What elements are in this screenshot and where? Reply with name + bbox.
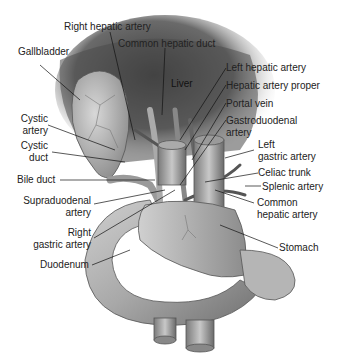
label-splenic-artery: Splenic artery bbox=[262, 181, 323, 193]
label-stomach: Stomach bbox=[279, 242, 318, 254]
label-cystic-artery-line2: artery bbox=[16, 125, 48, 137]
label-left-hepatic-artery: Left hepatic artery bbox=[226, 62, 306, 74]
label-celiac-trunk: Celiac trunk bbox=[258, 167, 311, 179]
label-hepatic-artery-proper: Hepatic artery proper bbox=[226, 80, 320, 92]
label-gastroduodenal-line1: Gastroduodenal bbox=[226, 115, 297, 127]
label-supraduodenal-artery: Supraduodenal artery bbox=[16, 195, 91, 219]
label-supraduodenal-line2: artery bbox=[16, 207, 91, 219]
label-bile-duct: Bile duct bbox=[17, 174, 55, 186]
label-right-gastric-line2: gastric artery bbox=[16, 239, 91, 251]
label-liver: Liver bbox=[171, 78, 193, 90]
anatomy-diagram: Right hepatic artery Common hepatic duct… bbox=[0, 0, 343, 355]
label-common-hepatic-line2: hepatic artery bbox=[257, 209, 318, 221]
label-left-gastric-artery: Left gastric artery bbox=[258, 139, 316, 163]
label-supraduodenal-line1: Supraduodenal bbox=[16, 195, 91, 207]
label-duodenum: Duodenum bbox=[40, 259, 89, 271]
label-common-hepatic-artery: Common hepatic artery bbox=[257, 197, 318, 221]
label-right-gastric-artery: Right gastric artery bbox=[16, 227, 91, 251]
label-portal-vein: Portal vein bbox=[226, 98, 273, 110]
label-cystic-artery-line1: Cystic bbox=[16, 113, 48, 125]
label-cystic-duct-line1: Cystic bbox=[16, 140, 48, 152]
label-left-gastric-line1: Left bbox=[258, 139, 316, 151]
label-cystic-duct-line2: duct bbox=[16, 152, 48, 164]
label-gallbladder: Gallbladder bbox=[18, 46, 69, 58]
label-gastroduodenal-artery: Gastroduodenal artery bbox=[226, 115, 297, 139]
label-left-gastric-line2: gastric artery bbox=[258, 151, 316, 163]
label-right-gastric-line1: Right bbox=[16, 227, 91, 239]
label-cystic-artery: Cystic artery bbox=[16, 113, 48, 137]
gallbladder-shape bbox=[72, 71, 129, 178]
label-common-hepatic-line1: Common bbox=[257, 197, 318, 209]
label-cystic-duct: Cystic duct bbox=[16, 140, 48, 164]
label-right-hepatic-artery: Right hepatic artery bbox=[64, 21, 151, 33]
label-gastroduodenal-line2: artery bbox=[226, 127, 297, 139]
label-common-hepatic-duct: Common hepatic duct bbox=[118, 38, 215, 50]
